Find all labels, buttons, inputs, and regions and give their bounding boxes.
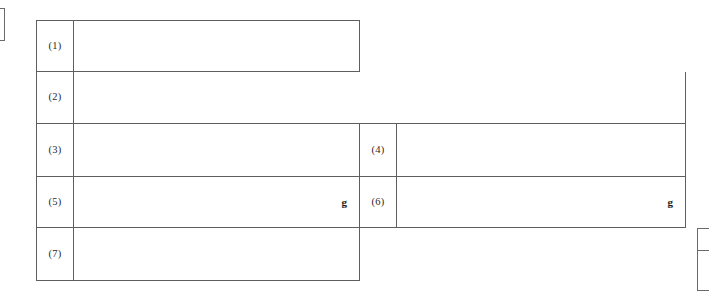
clipped-box-fragment-left <box>0 8 5 41</box>
field-label-5: (5) <box>49 197 62 208</box>
field-input-cell-6[interactable]: g <box>397 177 686 228</box>
field-label-cell-5: (5) <box>36 177 74 228</box>
field-input-cell-5[interactable]: g <box>74 177 360 228</box>
field-label-cell-3: (3) <box>36 124 74 177</box>
field-unit-5: g <box>342 197 360 208</box>
field-label-cell-1: (1) <box>36 20 74 72</box>
field-label-2: (2) <box>49 92 62 103</box>
field-input-cell-4[interactable] <box>397 124 686 177</box>
field-label-cell-4: (4) <box>360 124 397 177</box>
field-label-cell-7: (7) <box>36 228 74 281</box>
clipped-box-fragment-bottom-right-top <box>697 228 709 251</box>
field-label-4: (4) <box>372 145 385 156</box>
field-label-3: (3) <box>49 145 62 156</box>
field-input-cell-3[interactable] <box>74 124 360 177</box>
field-label-cell-6: (6) <box>360 177 397 228</box>
field-label-7: (7) <box>49 249 62 260</box>
field-label-1: (1) <box>49 41 62 52</box>
field-label-6: (6) <box>372 197 385 208</box>
clipped-box-fragment-bottom-right-bottom <box>697 251 709 291</box>
field-input-cell-1[interactable] <box>74 20 360 72</box>
field-unit-6: g <box>668 197 686 208</box>
field-input-cell-2[interactable] <box>74 72 686 124</box>
field-label-cell-2: (2) <box>36 72 74 124</box>
field-input-cell-7[interactable] <box>74 228 360 281</box>
